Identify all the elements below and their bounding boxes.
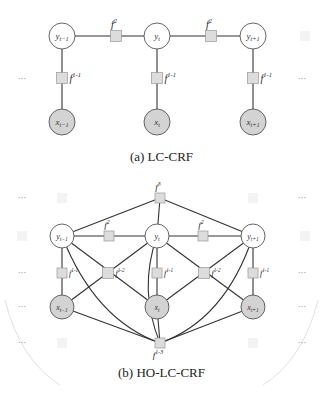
factor-label: f1-1 [69, 267, 79, 278]
cross-factor-icon: f1-2 [103, 267, 126, 278]
factor-label: f2 [206, 17, 213, 30]
factor-label: f1-1 [261, 71, 272, 84]
curved-edge [62, 236, 160, 343]
observed-node-x: xt+1 [241, 295, 265, 319]
hidden-node-y: yt [144, 23, 170, 49]
ellipsis-left: ··· [18, 74, 27, 84]
faded-factor-icon [300, 231, 310, 241]
ellipsis-right: ··· [298, 193, 307, 203]
factor-label: f1-2 [212, 267, 222, 278]
pairwise-factor-icon: f2 [104, 219, 114, 241]
bottom-factor-icon: f1-3 [153, 338, 165, 360]
unary-factor-icon: f1-1 [248, 267, 270, 278]
faded-factor-icon [57, 193, 67, 203]
caption-b: (b) HO-LC-CRF [0, 365, 323, 381]
faded-factor-icon [248, 338, 258, 348]
faded-factor-icon [57, 338, 67, 348]
ellipsis-right: ··· [298, 268, 307, 278]
pairwise-factor-icon: f2 [198, 219, 208, 241]
unary-factor-icon: f1-1 [248, 71, 272, 84]
unary-factor-icon: f1-1 [57, 71, 81, 84]
observed-node-x: xt−1 [50, 295, 74, 319]
unary-factor-icon: f1-1 [152, 267, 174, 278]
observed-node-x: xt [144, 109, 170, 135]
hidden-node-y: yt+1 [241, 224, 265, 248]
hidden-node-y: yt−1 [50, 224, 74, 248]
higher-order-edge [62, 198, 160, 236]
unary-factor-icon: f1-1 [57, 267, 79, 278]
observed-node-x: xt−1 [49, 109, 75, 135]
factor-graph-canvas: f2f2f1-1f1-1f1-1yt−1ytyt+1xt−1xtxt+1····… [0, 0, 323, 401]
ellipsis-right: ··· [298, 338, 307, 348]
ellipsis-left: ··· [18, 302, 27, 312]
faded-factor-icon [17, 231, 27, 241]
caption-a: (a) LC-CRF [0, 149, 323, 165]
factor-label: f2 [104, 219, 110, 230]
ellipsis-left: ··· [18, 338, 27, 348]
factor-label: f2 [198, 219, 204, 230]
hidden-node-y: yt [145, 224, 169, 248]
pairwise-factor-icon: f2 [111, 17, 122, 42]
ellipsis-right: ··· [298, 302, 307, 312]
hidden-node-y: yt−1 [49, 23, 75, 49]
factor-label: f1-1 [165, 71, 176, 84]
top-factor-icon: f3 [155, 181, 165, 203]
factor-label: f1-1 [70, 71, 81, 84]
ellipsis-left: ··· [18, 268, 27, 278]
factor-label: f1-2 [116, 267, 126, 278]
factor-label: f2 [111, 17, 118, 30]
ellipsis-left: ··· [18, 193, 27, 203]
factor-label: f1-1 [260, 267, 270, 278]
factor-label: f1-1 [164, 267, 174, 278]
observed-node-x: xt [145, 295, 169, 319]
higher-order-edge [160, 198, 253, 236]
faded-factor-icon [248, 193, 258, 203]
hidden-node-y: yt+1 [240, 23, 266, 49]
cross-factor-icon: f1-2 [199, 267, 222, 278]
curved-edge [160, 236, 253, 343]
observed-node-x: xt+1 [240, 109, 266, 135]
factor-label: f3 [155, 181, 161, 192]
unary-factor-icon: f1-1 [152, 71, 176, 84]
factor-label: f1-3 [153, 349, 163, 360]
pairwise-factor-icon: f2 [206, 17, 217, 42]
faded-factor-icon [300, 31, 310, 41]
ellipsis-right: ··· [298, 74, 307, 84]
